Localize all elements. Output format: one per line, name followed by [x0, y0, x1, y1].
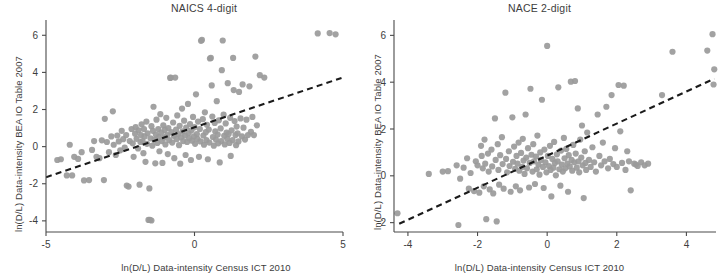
scatter-point [193, 91, 199, 97]
scatter-point [110, 108, 116, 114]
scatter-point [493, 157, 499, 163]
scatter-point [209, 113, 215, 119]
scatter-point [526, 184, 532, 190]
scatter-point [476, 190, 482, 196]
scatter-point [230, 55, 236, 61]
scatter-point [509, 114, 515, 120]
scatter-point [69, 172, 75, 178]
scatter-point [488, 147, 494, 153]
scatter-point [156, 148, 162, 154]
scatter-point [228, 153, 234, 159]
scatter-point [525, 145, 531, 151]
scatter-point [159, 160, 165, 166]
scatter-point [218, 125, 224, 131]
scatter-point [229, 127, 235, 133]
scatter-point [177, 161, 183, 167]
x-tick-label: -2 [473, 239, 482, 250]
scatter-point [185, 101, 191, 107]
scatter-point [506, 148, 512, 154]
scatter-point [600, 139, 606, 145]
scatter-point [483, 216, 489, 222]
scatter-point [261, 74, 267, 80]
y-tick-label: 4 [380, 77, 386, 88]
y-tick-label: 0 [32, 141, 38, 152]
scatter-point [617, 128, 623, 134]
scatter-point [704, 47, 710, 53]
scatter-point [579, 122, 585, 128]
scatter-point [572, 78, 578, 84]
scatter-point [217, 159, 223, 165]
scatter-point [146, 185, 152, 191]
scatter-point [548, 193, 554, 199]
scatter-point [596, 153, 602, 159]
scatter-point [607, 156, 613, 162]
scatter-point [486, 169, 492, 175]
scatter-point [202, 109, 208, 115]
scatter-point [223, 120, 229, 126]
scatter-point [165, 151, 171, 157]
scatter-point [199, 37, 205, 43]
scatter-point [532, 181, 538, 187]
scatter-point [123, 132, 129, 138]
scatter-point [575, 105, 581, 111]
scatter-point [536, 172, 542, 178]
scatter-point [539, 97, 545, 103]
scatter-point [181, 118, 187, 124]
scatter-point [206, 126, 212, 132]
scatter-point [237, 115, 243, 121]
trend-line [399, 79, 714, 224]
plot-area-nace: 6420-2-4-2024 [360, 0, 719, 255]
scatter-point [251, 132, 257, 138]
scatter-point [619, 160, 625, 166]
scatter-point [86, 177, 92, 183]
scatter-point [474, 162, 480, 168]
scatter-point [622, 167, 628, 173]
scatter-point [492, 115, 498, 121]
scatter-point [490, 190, 496, 196]
scatter-point [179, 105, 185, 111]
scatter-point [500, 161, 506, 167]
y-tick-label: 6 [32, 30, 38, 41]
scatter-point [489, 163, 495, 169]
scatter-point [530, 141, 536, 147]
plot-area-naics: 6420-2-4-505 [0, 0, 360, 255]
scatter-point [152, 160, 158, 166]
scatter-point [576, 169, 582, 175]
scatter-point [67, 142, 73, 148]
scatter-point [578, 154, 584, 160]
scatter-point [508, 189, 514, 195]
scatter-point [236, 89, 242, 95]
chart-panel-naics: NAICS 4-digit ln(D/L) Data-intensity BEA… [0, 0, 360, 275]
scatter-point [553, 172, 559, 178]
scatter-point [495, 141, 501, 147]
scatter-point [522, 111, 528, 117]
scatter-point [527, 86, 533, 92]
scatter-point [182, 152, 188, 158]
scatter-point [101, 177, 107, 183]
scatter-point [494, 218, 500, 224]
y-tick-label: 0 [380, 170, 386, 181]
scatter-point [219, 67, 225, 73]
scatter-point [208, 55, 214, 61]
x-axis-label-nace: ln(D/L) Data-intensity Census ICT 2010 [360, 262, 719, 273]
scatter-point [153, 117, 159, 123]
scatter-point [544, 43, 550, 49]
scatter-point [612, 145, 618, 151]
scatter-point [171, 155, 177, 161]
scatter-point [190, 114, 196, 120]
scatter-point [243, 117, 249, 123]
scatter-point [589, 144, 595, 150]
scatter-point [523, 154, 529, 160]
scatter-point [645, 161, 651, 167]
scatter-point [555, 84, 561, 90]
scatter-point [581, 195, 587, 201]
scatter-point [111, 142, 117, 148]
scatter-point [315, 30, 321, 36]
scatter-point [541, 147, 547, 153]
scatter-point [517, 187, 523, 193]
scatter-point [200, 116, 206, 122]
y-tick-label: 6 [380, 30, 386, 41]
scatter-point [91, 138, 97, 144]
scatter-point [231, 118, 237, 124]
scatter-point [457, 176, 463, 182]
